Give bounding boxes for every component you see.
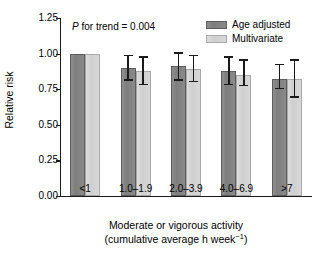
y-axis-tick-mark [56,18,60,19]
bar-age-adjusted[interactable] [272,79,287,196]
x-axis-tick-label: 2.0–3.9 [169,183,202,194]
y-axis-tick-mark [56,54,60,55]
y-axis-tick-label: 0.50 [28,120,58,130]
error-bar-cap-top [275,64,284,65]
bar-age-adjusted[interactable] [171,66,186,196]
legend-swatch-multivariate [206,35,227,43]
y-axis-tick-label: 0.00 [28,191,58,201]
error-bar-cap-top [290,59,299,60]
x-axis-title-line2: (cumulative average h week−1) [40,232,312,246]
x-axis-title: Moderate or vigorous activity (cumulativ… [40,218,312,246]
p-symbol: P [72,21,79,32]
legend-item[interactable]: Multivariate [206,33,290,45]
y-axis-tick-label: 1.25 [28,13,58,23]
bar-age-adjusted[interactable] [70,54,85,196]
legend-label: Multivariate [232,34,283,44]
y-axis-tick-label: 1.00 [28,49,58,59]
bar-multivariate[interactable] [236,75,251,196]
bar-multivariate[interactable] [287,79,302,196]
bar-group [121,18,151,196]
x-axis-line [60,196,312,197]
y-axis-line [60,18,61,196]
y-axis-tick-mark [56,125,60,126]
y-axis-tick-label: 0.75 [28,84,58,94]
x-axis-tick-label: >7 [281,183,292,194]
chart-figure: Relative risk 0.000.250.500.751.001.25 <… [0,0,319,261]
y-axis-tick-mark [56,196,60,197]
y-axis-title: Relative risk [2,0,16,200]
bar-multivariate[interactable] [85,54,100,196]
x-axis-title-superscript: −1 [235,232,244,241]
p-for-trend-annotation: P for trend = 0.004 [72,21,155,32]
chart-legend: Age adjustedMultivariate [206,19,290,47]
error-bar-cap-top [239,59,248,60]
y-axis-tick-mark [56,89,60,90]
bar-age-adjusted[interactable] [121,68,136,196]
y-axis-tick-label: 0.25 [28,155,58,165]
error-bar-cap-top [189,55,198,56]
bar-multivariate[interactable] [136,71,151,196]
error-bar-cap-top [224,56,233,57]
y-axis-title-text: Relative risk [3,71,15,128]
p-for-trend-text: for trend = 0.004 [79,21,155,32]
bar-group [171,18,201,196]
legend-item[interactable]: Age adjusted [206,19,290,31]
x-axis-tick-label: <1 [79,183,90,194]
legend-label: Age adjusted [232,20,290,30]
y-axis-tick-mark [56,160,60,161]
error-bar-cap-top [124,55,133,56]
legend-swatch-age-adjusted [206,21,227,29]
error-bar-cap-top [174,52,183,53]
x-axis-title-line2-prefix: (cumulative average h week [105,233,236,245]
error-bar-cap-top [139,56,148,57]
bar-group [70,18,100,196]
x-axis-title-line1: Moderate or vigorous activity [40,218,312,232]
x-axis-tick-label: 1.0–1.9 [119,183,152,194]
bar-multivariate[interactable] [186,69,201,196]
x-axis-tick-label: 4.0–6.9 [220,183,253,194]
bar-age-adjusted[interactable] [221,71,236,196]
x-axis-title-line2-suffix: ) [244,233,248,245]
